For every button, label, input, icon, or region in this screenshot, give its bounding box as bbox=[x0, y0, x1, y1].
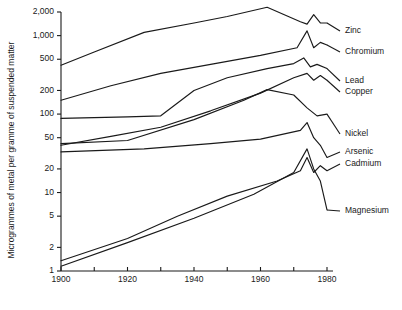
x-axis-ticks bbox=[61, 267, 327, 271]
series-label-nickel: Nickel bbox=[345, 128, 368, 138]
leader-line-copper bbox=[327, 80, 340, 92]
y-tick-label: 50 bbox=[45, 132, 55, 142]
series-label-lead: Lead bbox=[345, 75, 364, 85]
x-tick-label: 1940 bbox=[185, 274, 204, 284]
line-chart-canvas: Microgrammes of metal per gramme of susp… bbox=[0, 0, 402, 310]
series-labels: ZincChromiumLeadCopperNickelArsenicCadmi… bbox=[345, 25, 389, 215]
series-line-cadmium bbox=[61, 157, 327, 260]
series-line-copper bbox=[61, 73, 327, 145]
y-tick-label: 10 bbox=[45, 187, 55, 197]
x-axis: 19001920194019601980 bbox=[52, 267, 337, 284]
series-label-magnesium: Magnesium bbox=[345, 205, 389, 215]
leader-line-magnesium bbox=[327, 210, 340, 211]
x-tick-label: 1900 bbox=[52, 274, 71, 284]
x-tick-label: 1960 bbox=[251, 274, 270, 284]
x-tick-label: 1920 bbox=[118, 274, 137, 284]
y-axis-tick-labels: 1251020501002005001,0002,000 bbox=[33, 6, 55, 275]
y-tick-label: 100 bbox=[40, 108, 54, 118]
x-axis-tick-labels: 19001920194019601980 bbox=[52, 274, 337, 284]
x-tick-label: 1980 bbox=[318, 274, 337, 284]
y-tick-label: 1,000 bbox=[33, 30, 55, 40]
leader-line-zinc bbox=[327, 23, 340, 31]
series-label-cadmium: Cadmium bbox=[345, 158, 381, 168]
y-axis-ticks bbox=[57, 12, 61, 271]
series-label-chromium: Chromium bbox=[345, 46, 384, 56]
y-axis: 1251020501002005001,0002,000 bbox=[33, 6, 61, 275]
data-series-lines bbox=[61, 7, 327, 266]
leader-line-lead bbox=[327, 69, 340, 81]
leader-line-chromium bbox=[327, 45, 340, 52]
y-axis-title: Microgrammes of metal per gramme of susp… bbox=[6, 41, 16, 258]
series-label-zinc: Zinc bbox=[345, 25, 362, 35]
leader-line-nickel bbox=[327, 114, 340, 134]
y-tick-label: 2,000 bbox=[33, 6, 55, 16]
y-axis-title-text: Microgrammes of metal per gramme of susp… bbox=[6, 41, 16, 258]
series-line-zinc bbox=[61, 7, 327, 65]
y-tick-label: 20 bbox=[45, 163, 55, 173]
series-label-copper: Copper bbox=[345, 86, 373, 96]
series-leader-lines bbox=[327, 23, 340, 211]
y-tick-label: 200 bbox=[40, 85, 54, 95]
leader-line-arsenic bbox=[327, 152, 340, 157]
series-label-arsenic: Arsenic bbox=[345, 146, 374, 156]
y-tick-label: 500 bbox=[40, 53, 54, 63]
leader-line-cadmium bbox=[327, 164, 340, 171]
chart-figure: Microgrammes of metal per gramme of susp… bbox=[0, 0, 402, 310]
series-line-arsenic bbox=[61, 123, 327, 158]
y-tick-label: 2 bbox=[49, 242, 54, 252]
y-tick-label: 5 bbox=[49, 210, 54, 220]
series-line-magnesium bbox=[61, 149, 327, 266]
